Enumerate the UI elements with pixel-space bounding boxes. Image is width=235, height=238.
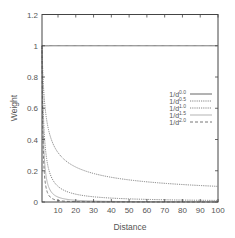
chart: 102030405060708090100 00.20.40.60.811.2 … bbox=[0, 0, 235, 238]
y-tick-label: 1.2 bbox=[27, 11, 39, 20]
x-tick-label: 40 bbox=[107, 206, 116, 215]
x-tick-label: 70 bbox=[160, 206, 169, 215]
x-tick-label: 90 bbox=[196, 206, 205, 215]
y-tick-label: 1 bbox=[34, 42, 39, 51]
y-axis-label: Weight bbox=[9, 94, 19, 121]
x-tick-label: 10 bbox=[54, 206, 63, 215]
x-tick-label: 30 bbox=[89, 206, 98, 215]
y-tick-label: 0 bbox=[34, 198, 39, 207]
y-tick-label: 0.4 bbox=[27, 136, 39, 145]
x-tick-label: 60 bbox=[142, 206, 151, 215]
y-tick-label: 0.6 bbox=[27, 104, 39, 113]
x-tick-label: 20 bbox=[71, 206, 80, 215]
y-tick-label: 0.2 bbox=[27, 167, 39, 176]
series-line-3 bbox=[42, 46, 217, 202]
series-line-2 bbox=[42, 46, 217, 201]
x-tick-label: 80 bbox=[178, 206, 187, 215]
series-line-4 bbox=[42, 46, 217, 202]
y-tick-label: 0.8 bbox=[27, 73, 39, 82]
plot-frame bbox=[42, 15, 218, 203]
plot-curves bbox=[42, 46, 217, 202]
y-axis-ticks: 00.20.40.60.811.2 bbox=[27, 11, 218, 208]
x-tick-label: 50 bbox=[125, 206, 134, 215]
x-tick-label: 100 bbox=[211, 206, 225, 215]
series-line-1 bbox=[42, 46, 217, 187]
legend-label: 1/d2.0 bbox=[169, 117, 186, 126]
legend: 1/d0.01/d0.51/d1.01/d1.51/d2.0 bbox=[169, 89, 212, 126]
x-axis-label: Distance bbox=[113, 222, 146, 232]
